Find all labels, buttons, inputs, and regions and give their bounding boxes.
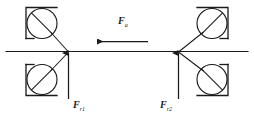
contact-line-upper-left bbox=[51, 32, 69, 52]
roller-diagonal bbox=[31, 69, 52, 90]
axial-force-label: Fa bbox=[118, 16, 128, 28]
contact-line-lower-left bbox=[51, 52, 69, 71]
contact-line-upper-right bbox=[179, 32, 204, 52]
radial-force-right-label: Fr2 bbox=[160, 100, 172, 112]
radial-force-left-symbol: F bbox=[73, 99, 80, 110]
radial-force-left-label: Fr1 bbox=[73, 100, 85, 112]
roller-diagonal bbox=[201, 13, 222, 34]
axial-force-symbol: F bbox=[118, 15, 125, 26]
force-diagram-figure: Fa Fr1 Fr2 bbox=[0, 0, 254, 124]
radial-force-right-symbol: F bbox=[160, 99, 167, 110]
axial-force-subscript: a bbox=[125, 22, 128, 28]
contact-line-lower-right bbox=[179, 52, 204, 71]
roller-diagonal bbox=[31, 13, 52, 34]
roller-diagonal bbox=[201, 69, 222, 90]
radial-force-left-subscript: r1 bbox=[80, 106, 85, 112]
radial-force-right-subscript: r2 bbox=[167, 106, 172, 112]
